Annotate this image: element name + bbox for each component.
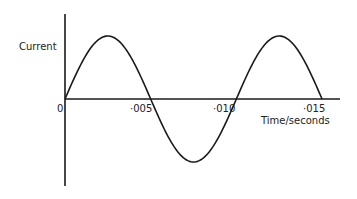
x-tick-label-015: ·015 — [303, 103, 325, 114]
y-axis-label: Current — [19, 41, 57, 52]
chart-canvas: Current 0 ·005 ·010 ·015 Time/seconds — [0, 0, 357, 199]
x-tick-label-010: ·010 — [213, 103, 235, 114]
x-tick-label-005: ·005 — [130, 103, 152, 114]
origin-label: 0 — [57, 103, 63, 114]
x-axis-label: Time/seconds — [260, 115, 330, 126]
